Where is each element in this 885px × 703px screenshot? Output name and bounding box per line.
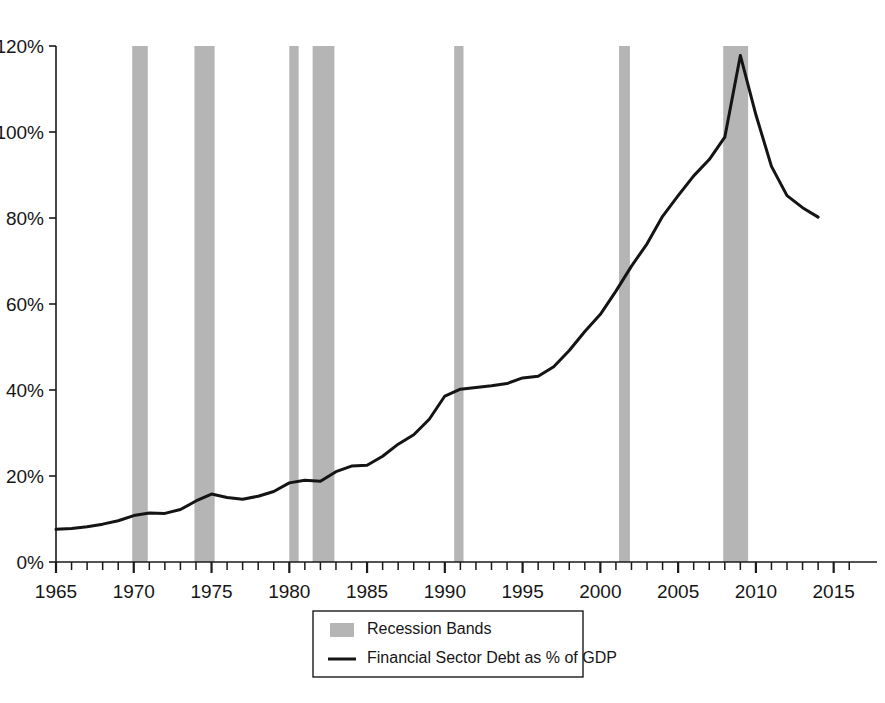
recession-band: [194, 46, 214, 562]
chart-figure: 0%20%40%60%80%100%120%196519701975198019…: [0, 0, 885, 703]
x-axis-tick-label: 1970: [113, 581, 155, 602]
recession-band: [132, 46, 148, 562]
recession-band: [313, 46, 335, 562]
chart-title: [0, 0, 885, 5]
x-axis-tick-label: 1975: [190, 581, 232, 602]
y-axis-tick-label: 80%: [6, 208, 44, 229]
x-axis-tick-label: 2015: [813, 581, 855, 602]
recession-bands-group: [132, 46, 748, 562]
x-axis-tick-label: 1980: [268, 581, 310, 602]
x-axis-tick-label: 1965: [35, 581, 77, 602]
x-axis-tick-label: 1990: [424, 581, 466, 602]
recession-band: [619, 46, 630, 562]
recession-band: [289, 46, 298, 562]
x-axis-tick-label: 2005: [657, 581, 699, 602]
y-axis-tick-label: 120%: [0, 36, 44, 57]
y-axis-tick-label: 60%: [6, 294, 44, 315]
data-series-group: [56, 55, 818, 529]
chart-legend: Recession BandsFinancial Sector Debt as …: [313, 611, 617, 677]
x-axis-tick-label: 2010: [735, 581, 777, 602]
x-axis-tick-label: 1995: [501, 581, 543, 602]
y-axis-tick-label: 20%: [6, 466, 44, 487]
y-axis-tick-label: 0%: [17, 552, 45, 573]
x-axis-tick-label: 1985: [346, 581, 388, 602]
y-axis-tick-label: 40%: [6, 380, 44, 401]
financial-sector-debt-line-chart: 0%20%40%60%80%100%120%196519701975198019…: [0, 0, 885, 703]
recession-band: [454, 46, 463, 562]
y-axis-tick-label: 100%: [0, 122, 44, 143]
x-axis-tick-label: 2000: [579, 581, 621, 602]
legend-item-label: Financial Sector Debt as % of GDP: [367, 649, 617, 666]
legend-item-label: Recession Bands: [367, 620, 492, 637]
legend-swatch-recession-bands: [330, 623, 354, 637]
series-line-financial-sector-debt: [56, 55, 818, 529]
